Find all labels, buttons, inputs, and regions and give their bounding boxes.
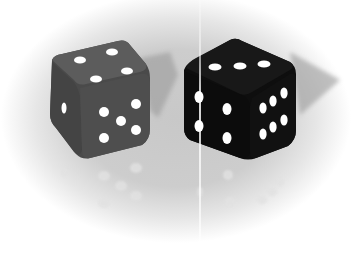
left-die-front-pip xyxy=(62,103,67,114)
left-die-right-face xyxy=(80,74,150,159)
vertical-seam-line xyxy=(199,0,201,250)
left-die xyxy=(50,41,150,159)
reflections xyxy=(61,163,284,208)
dice-photo: Two dice xyxy=(0,0,352,255)
dice-illustration xyxy=(0,0,352,255)
right-die-shadow xyxy=(290,52,340,115)
